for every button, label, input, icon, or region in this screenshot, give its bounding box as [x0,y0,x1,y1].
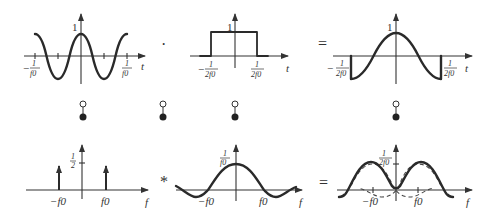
svg-text:1: 1 [32,59,36,68]
convolve-operator: * [160,173,168,190]
tick-label-f0: f0 [414,195,423,207]
tick-label-right: 1 2f0 [444,59,457,78]
peak-label: 1 2 [70,152,76,170]
plot-windowed-cosine: 1 t − 1 2f0 1 2f0 [327,14,472,84]
axis-label: t [465,62,469,74]
peak-label: 1 f0 [220,149,230,167]
svg-text:1: 1 [448,59,452,68]
plot-sinc-spectrum: 1 f0 −f0 f0 f [176,145,304,208]
equals-operator: = [318,35,327,52]
tick-label-right: 1 2f0 [251,60,264,79]
component-sinc-right [358,164,451,197]
svg-text:2f0: 2f0 [205,70,215,79]
svg-text:2f0: 2f0 [444,69,454,78]
peak-label: 1 [227,21,233,33]
svg-text:f0: f0 [30,69,36,78]
svg-text:−: − [23,62,29,74]
axis-label: f [145,196,150,208]
plot-cosine: 1 t − 1 f0 1 f0 [23,14,145,84]
rect-curve [200,32,268,56]
svg-text:1: 1 [209,60,213,69]
component-sinc-left [341,164,434,197]
svg-text:−: − [198,63,204,75]
tick-label-left: − 1 f0 [23,59,40,78]
svg-text:2f0: 2f0 [336,69,346,78]
tick-label-left: − 1 2f0 [198,60,218,79]
svg-text:f0: f0 [220,158,226,167]
tick-label-f0: f0 [259,195,268,207]
equals-operator: = [319,174,328,191]
peak-label: 1 [72,21,78,33]
tick-label-neg-f0: −f0 [50,195,66,207]
svg-text:2: 2 [71,161,75,170]
connector-result [393,101,400,121]
connector-cosine [80,101,87,121]
svg-text:2f0: 2f0 [379,158,389,167]
tick-label-neg-f0: −f0 [198,195,214,207]
multiply-operator: · [161,36,166,53]
fourier-pair-connectors [80,101,400,121]
peak-label: 1 [387,21,393,33]
svg-text:2f0: 2f0 [251,70,261,79]
plot-delta-spectrum: 1 2 −f0 f0 f [26,145,150,208]
svg-text:−: − [327,62,333,74]
axis-label: t [286,62,290,74]
tick-label-left: − 1 2f0 [327,59,349,78]
svg-text:f0: f0 [122,69,128,78]
connector-rect-2 [232,101,239,121]
tick-label-neg-f0: −f0 [362,195,378,207]
svg-text:1: 1 [125,59,129,68]
connector-rect [160,101,167,121]
svg-text:1: 1 [71,152,75,161]
axis-label: t [141,60,145,72]
tick-label-right: 1 f0 [122,59,132,78]
svg-text:1: 1 [223,149,227,158]
svg-text:1: 1 [382,149,386,158]
tick-label-f0: f0 [101,195,110,207]
plot-result-spectrum: 1 2f0 −f0 f0 f [337,145,472,208]
svg-text:1: 1 [255,60,259,69]
axis-label: f [466,196,471,208]
plot-rect-window: 1 t − 1 2f0 1 2f0 [190,14,290,79]
svg-text:1: 1 [340,59,344,68]
axis-label: f [299,196,304,208]
peak-label: 1 2f0 [379,149,392,167]
fourier-diagram: 1 t − 1 f0 1 f0 · 1 t − 1 2f0 1 2f0 [0,0,495,218]
